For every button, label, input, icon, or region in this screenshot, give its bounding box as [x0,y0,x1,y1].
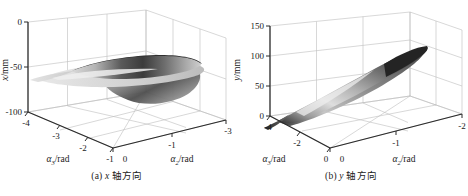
left-tick-a-m2: -2 [79,143,87,153]
right-tick-a-0: 0 [123,154,128,164]
right-axis-label-a: α2/rad [170,154,193,166]
caption-a-suffix: 轴方向 [109,171,142,181]
right-axis-label-b: α2/rad [392,154,415,166]
z-tick-b-50: 50 [255,81,265,91]
z-tick-b-0: 0 [260,111,265,121]
plot-a: 0 -50 -100 x/mm -4 -3 -2 -1 α3/rad [0,0,234,172]
left-axis-label-b: α3/rad [262,154,285,166]
left-tick-a-m3: -3 [52,131,60,141]
left-tick-a-m4: -4 [22,118,30,128]
caption-a: (a) x 轴方向 [0,168,234,182]
right-tick-b-m1: -1 [392,138,400,148]
caption-b-suffix: 轴方向 [344,171,377,181]
plot-b-svg: 150 100 50 0 y/mm -4 -2 0 α3/rad [234,0,468,172]
surface-b [264,46,428,130]
right-tick-a-m3: -3 [224,126,232,136]
left-tick-b-0: 0 [324,154,329,164]
right-tick-a-m1: -1 [168,140,176,150]
left-tick-a-m1: -1 [106,154,114,164]
caption-a-prefix: (a) [91,171,105,181]
left-axis-label-a: α3/rad [46,154,69,166]
right-tick-b-0: 0 [340,154,345,164]
plot-a-svg: 0 -50 -100 x/mm -4 -3 -2 -1 α3/rad [0,0,234,172]
z-tick-b-100: 100 [251,51,265,61]
caption-b-prefix: (b) [325,171,339,181]
z-tick-a-0: 0 [18,17,23,27]
left-tick-b-m4: -4 [264,122,272,132]
left-tick-b-m2: -2 [293,138,301,148]
plot-b: 150 100 50 0 y/mm -4 -2 0 α3/rad [234,0,468,172]
z-tick-a-100: -100 [6,107,23,117]
z-tick-b-150: 150 [251,21,265,31]
surface-a [30,55,204,104]
z-tick-a-50: -50 [10,62,22,72]
panel-b: 150 100 50 0 y/mm -4 -2 0 α3/rad [234,0,468,196]
right-tick-b-m2: -2 [458,121,466,131]
left-ticks-a [25,112,113,152]
z-axis-label-b: y/mm [234,59,242,82]
z-axis-label-a: x/mm [0,59,10,82]
panel-a: 0 -50 -100 x/mm -4 -3 -2 -1 α3/rad [0,0,234,196]
caption-b: (b) y 轴方向 [234,168,468,182]
figure-container: 0 -50 -100 x/mm -4 -3 -2 -1 α3/rad [0,0,468,196]
